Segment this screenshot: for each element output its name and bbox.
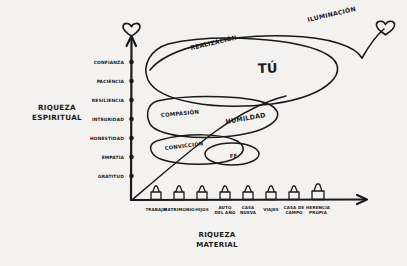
loop-label-compasion: COMPASIÓN <box>161 109 200 118</box>
y-axis-title-line1: RIQUEZA <box>38 103 76 112</box>
x-tick-label-hijos: HIJOS <box>195 207 208 212</box>
x-tick-label-casa-l2: NUEVA <box>240 210 257 215</box>
house-icon <box>174 186 184 200</box>
y-tick-label-gratitud: GRATITUD <box>98 174 124 179</box>
x-tick-label-herencia-l2: PROPIA <box>309 210 328 215</box>
loop-label-conviccion: CONVICCIÓN <box>164 140 203 151</box>
y-tick-dot <box>129 174 134 179</box>
house-icon <box>197 186 207 200</box>
house-icon <box>243 186 253 200</box>
y-tick-dot <box>129 79 134 84</box>
y-tick-label-integridad: INTEGRIDAD <box>92 117 124 122</box>
y-tick-dot <box>129 117 134 122</box>
loop-label-humildad: HUMILDAD <box>225 111 266 126</box>
y-tick-dot <box>129 60 134 65</box>
sketch-canvas: CONFIANZA PACIENCIA RESILIENCIA INTEGRID… <box>0 0 407 266</box>
y-tick-label-resiliencia: RESILIENCIA <box>92 98 125 103</box>
loop-label-realizacion: REALIZACIÓN <box>190 33 238 50</box>
x-axis-ticks <box>151 184 324 200</box>
y-axis-title-line2: ESPIRITUAL <box>32 113 82 122</box>
heart-icon <box>123 23 140 36</box>
y-tick-label-empatia: EMPATÍA <box>102 154 125 160</box>
x-tick-label-auto-l2: DEL AÑO <box>214 210 235 215</box>
spiral-end-stroke <box>362 29 384 58</box>
house-icon <box>220 186 230 200</box>
y-tick-dot <box>129 136 134 141</box>
house-icon <box>289 186 299 200</box>
annotation-label-iluminacion: ILUMINACIÓN <box>307 5 357 23</box>
x-axis-title-line2: MATERIAL <box>196 241 238 249</box>
house-icon <box>312 184 324 200</box>
x-tick-label-campo-l2: CAMPO <box>285 210 303 215</box>
loop-top <box>146 36 362 106</box>
y-tick-label-confianza: CONFIANZA <box>94 60 125 65</box>
loop-label-fe: FE <box>230 152 238 159</box>
x-tick-label-matrimonio: MATRIMONIO <box>163 207 195 212</box>
loop-label-tu: TÚ <box>258 60 278 76</box>
y-tick-label-honestidad: HONESTIDAD <box>90 136 124 141</box>
x-axis-title-line1: RIQUEZA <box>198 231 235 239</box>
y-tick-dot <box>129 98 134 103</box>
y-tick-dot <box>129 155 134 160</box>
y-tick-label-paciencia: PACIENCIA <box>97 79 125 84</box>
house-icon <box>151 186 161 200</box>
x-tick-label-viajes: VIAJES <box>263 207 279 212</box>
house-icon <box>266 186 276 200</box>
